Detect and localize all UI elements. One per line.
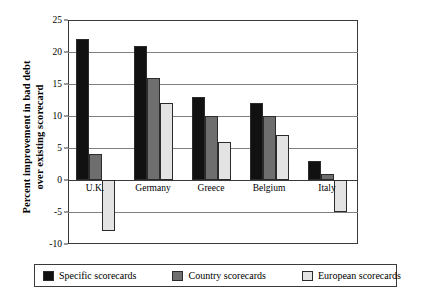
chart-legend: Specific scorecardsCountry scorecardsEur… [34, 264, 397, 287]
y-tick-label: -5 [54, 207, 62, 217]
category-label: Belgium [253, 183, 286, 193]
legend-item[interactable]: Country scorecards [172, 270, 265, 281]
bar[interactable] [218, 142, 231, 180]
bar-group [250, 20, 289, 244]
y-axis-title-line-2: over existing scorecard [33, 84, 46, 189]
bar[interactable] [276, 135, 289, 180]
y-tick-label: 5 [57, 143, 62, 153]
y-axis-title-line-1: Percent improvement in bad debt [20, 60, 33, 213]
y-tick-label: 0 [57, 175, 62, 185]
chart-figure: Percent improvement in bad debt over exi… [0, 0, 431, 298]
bar[interactable] [160, 103, 173, 180]
bar[interactable] [76, 39, 89, 180]
y-tick-mark [64, 148, 68, 149]
category-label: Italy [318, 183, 335, 193]
bar[interactable] [192, 97, 205, 180]
legend-swatch-icon [172, 271, 183, 281]
y-tick-label: 15 [53, 79, 63, 89]
bar[interactable] [308, 161, 321, 180]
bar[interactable] [263, 116, 276, 180]
legend-label: European scorecards [318, 270, 401, 281]
y-tick-label: 10 [53, 111, 63, 121]
bar-group [134, 20, 173, 244]
bar-group [308, 20, 347, 244]
bar[interactable] [250, 103, 263, 180]
legend-label: Country scorecards [188, 270, 265, 281]
y-tick-mark [64, 20, 68, 21]
legend-swatch-icon [302, 271, 313, 281]
y-tick-mark [64, 52, 68, 53]
bar[interactable] [134, 46, 147, 180]
legend-item[interactable]: Specific scorecards [43, 270, 136, 281]
y-tick-mark [64, 116, 68, 117]
bar[interactable] [321, 174, 334, 180]
legend-item[interactable]: European scorecards [302, 270, 401, 281]
category-label: Germany [135, 183, 170, 193]
y-tick-label: -10 [49, 239, 62, 249]
y-axis-title: Percent improvement in bad debt over exi… [16, 17, 50, 257]
plot-area: 2520151050-5-10 U.K.GermanyGreeceBelgium… [68, 20, 358, 244]
legend-label: Specific scorecards [59, 270, 136, 281]
bar[interactable] [89, 154, 102, 180]
bar-group [192, 20, 231, 244]
y-tick-mark [64, 84, 68, 85]
y-tick-mark [64, 180, 68, 181]
bar-group [76, 20, 115, 244]
y-tick-mark [64, 212, 68, 213]
legend-swatch-icon [43, 271, 54, 281]
category-label: U.K. [86, 183, 104, 193]
bar[interactable] [147, 78, 160, 180]
y-tick-mark [64, 244, 68, 245]
category-label: Greece [198, 183, 225, 193]
bar[interactable] [205, 116, 218, 180]
y-tick-label: 25 [53, 15, 63, 25]
y-tick-label: 20 [53, 47, 63, 57]
